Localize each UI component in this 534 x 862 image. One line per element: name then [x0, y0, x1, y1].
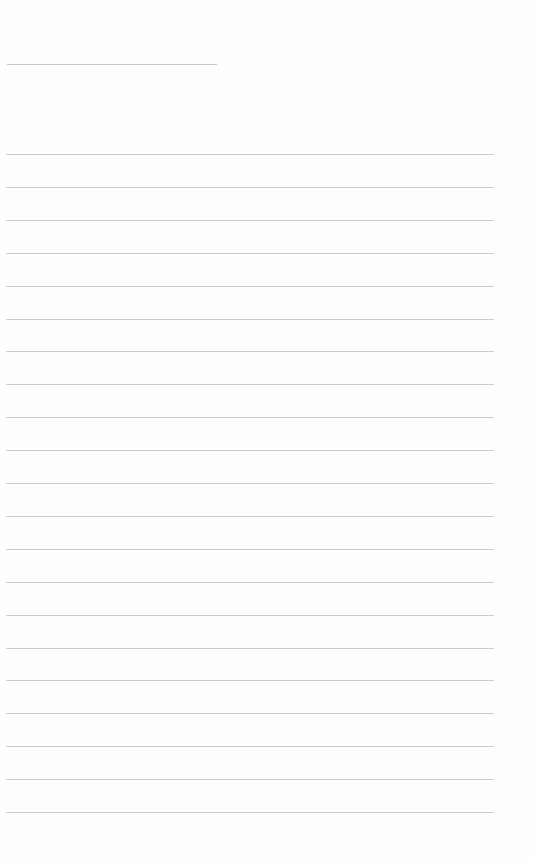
ruled-line: [6, 384, 494, 385]
ruled-line: [6, 417, 494, 418]
ruled-line: [6, 154, 494, 155]
ruled-line: [6, 746, 494, 747]
ruled-line: [6, 286, 494, 287]
ruled-line: [6, 351, 494, 352]
ruled-line: [6, 779, 494, 780]
ruled-line: [6, 582, 494, 583]
ruled-line: [6, 516, 494, 517]
ruled-line: [6, 713, 494, 714]
ruled-line: [6, 483, 494, 484]
ruled-line: [6, 220, 494, 221]
ruled-line: [6, 549, 494, 550]
lined-page: [0, 0, 534, 862]
ruled-line: [6, 450, 494, 451]
ruled-line: [6, 680, 494, 681]
ruled-line: [6, 812, 494, 813]
ruled-line: [6, 187, 494, 188]
ruled-line: [6, 253, 494, 254]
ruled-line: [6, 319, 494, 320]
ruled-line: [6, 615, 494, 616]
title-write-line: [7, 64, 217, 65]
ruled-line: [6, 648, 494, 649]
